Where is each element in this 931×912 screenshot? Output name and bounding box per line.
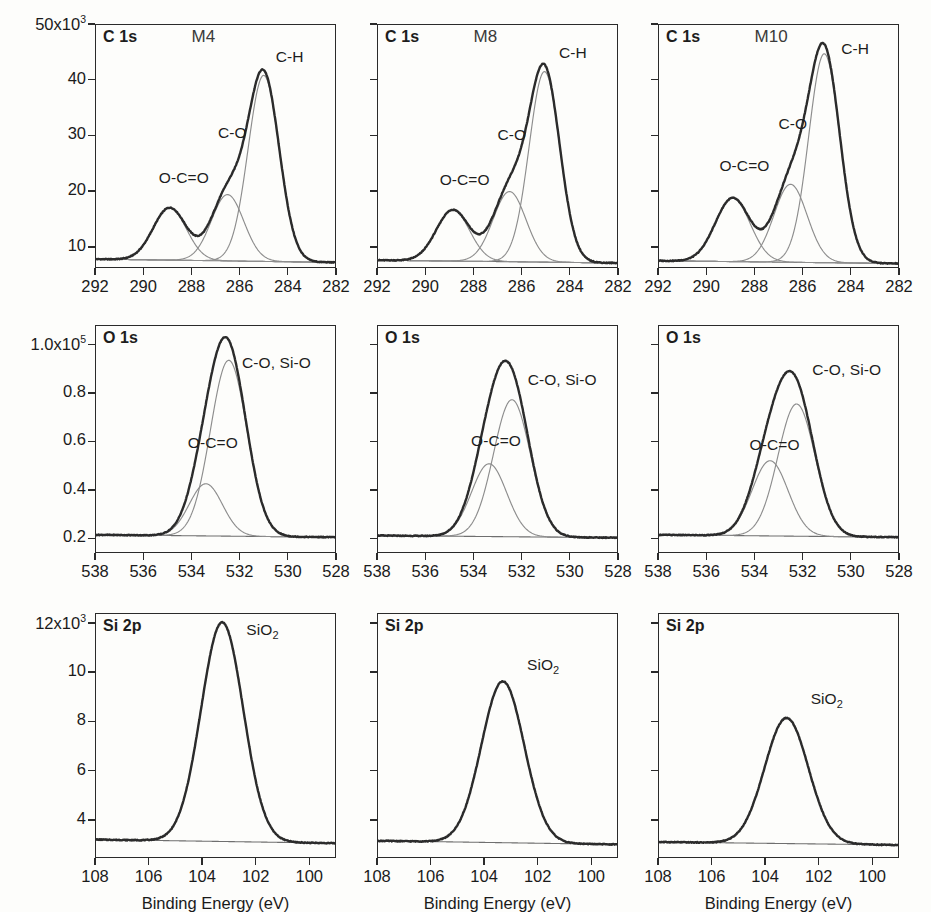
x-tick-label: 102	[508, 867, 568, 886]
component-label-0: O-C=O	[440, 171, 490, 189]
component-curve-2	[95, 75, 336, 262]
region-label: O 1s	[385, 329, 420, 347]
y-tickmark	[88, 819, 95, 820]
component-curve-1	[95, 195, 336, 263]
x-tickmark	[850, 268, 851, 275]
y-tickmark	[651, 538, 658, 539]
y-tickmark	[88, 770, 95, 771]
y-tick-label: 30	[0, 124, 86, 143]
x-tickmark	[94, 268, 95, 275]
component-curve-0	[95, 208, 336, 263]
x-tick-label: 104	[735, 867, 795, 886]
y-tick-label: 50x103	[0, 13, 86, 34]
spectrum-plot	[658, 24, 899, 268]
region-label: O 1s	[666, 329, 701, 347]
y-tickmark	[88, 190, 95, 191]
x-tickmark	[802, 553, 803, 560]
y-tickmark	[651, 671, 658, 672]
component-curve-2	[377, 72, 618, 263]
x-tickmark	[94, 858, 95, 865]
x-axis-title: Binding Energy (eV)	[658, 894, 899, 912]
y-tickmark	[370, 441, 377, 442]
y-tick-label: 10	[0, 236, 86, 255]
panel-si2p-m8: Si 2pSiO2108106104102100Binding Energy (…	[377, 613, 618, 858]
component-curve-0	[658, 461, 899, 537]
y-tick-label: 8	[0, 710, 86, 729]
component-label-1: C-O, Si-O	[812, 361, 881, 379]
panel-o1s-m4: O 1sO-C=OC-O, Si-O5385365345325305280.20…	[95, 325, 336, 553]
y-tickmark	[88, 721, 95, 722]
x-tickmark	[802, 268, 803, 275]
x-tickmark	[255, 858, 256, 865]
y-tickmark	[88, 538, 95, 539]
component-label-0: O-C=O	[471, 432, 521, 450]
y-tickmark	[370, 190, 377, 191]
y-tick-label: 0.8	[0, 382, 86, 401]
x-tickmark	[850, 553, 851, 560]
spectrum-plot	[658, 613, 899, 858]
x-tickmark	[657, 268, 658, 275]
y-tickmark	[370, 23, 377, 24]
component-curve-0	[377, 464, 618, 538]
y-tickmark	[88, 441, 95, 442]
panel-o1s-m10: O 1sO-C=OC-O, Si-O538536534532530528	[658, 325, 899, 553]
y-tick-label: 1.0x105	[0, 333, 86, 354]
x-tick-label: 106	[119, 867, 179, 886]
x-tickmark	[818, 858, 819, 865]
y-tickmark	[370, 79, 377, 80]
x-tickmark	[191, 553, 192, 560]
spectrum-plot	[95, 613, 336, 858]
x-tickmark	[473, 268, 474, 275]
x-tickmark	[473, 553, 474, 560]
y-tickmark	[88, 489, 95, 490]
y-tickmark	[651, 622, 658, 623]
y-tickmark	[88, 622, 95, 623]
y-tickmark	[651, 344, 658, 345]
y-tickmark	[651, 23, 658, 24]
panel-c1s-m4: C 1sM4O-C=OC-OC-H29229028828628428210203…	[95, 24, 336, 268]
panel-c1s-m8: C 1sM8O-C=OC-OC-H292290288286284282	[377, 24, 618, 268]
y-tickmark	[651, 489, 658, 490]
x-tickmark	[191, 268, 192, 275]
x-tickmark	[287, 268, 288, 275]
y-tickmark	[370, 246, 377, 247]
x-tickmark	[591, 858, 592, 865]
x-tickmark	[657, 858, 658, 865]
x-tickmark	[94, 553, 95, 560]
x-tickmark	[335, 268, 336, 275]
y-tick-label: 4	[0, 809, 86, 828]
component-curve-1	[658, 404, 899, 537]
y-tick-label: 6	[0, 760, 86, 779]
x-tickmark	[754, 268, 755, 275]
y-tickmark	[370, 489, 377, 490]
y-tickmark	[88, 392, 95, 393]
y-tickmark	[88, 344, 95, 345]
x-tickmark	[872, 858, 873, 865]
y-tickmark	[651, 819, 658, 820]
region-label: Si 2p	[666, 617, 705, 635]
x-tickmark	[898, 268, 899, 275]
component-label-2: C-H	[841, 40, 869, 58]
x-tick-label: 102	[226, 867, 286, 886]
x-tickmark	[898, 553, 899, 560]
x-tickmark	[569, 268, 570, 275]
y-tickmark	[370, 671, 377, 672]
x-tickmark	[754, 553, 755, 560]
y-tick-label: 0.6	[0, 430, 86, 449]
component-curve-0	[95, 622, 336, 843]
region-label: Si 2p	[385, 617, 424, 635]
x-tick-label: 108	[65, 867, 125, 886]
sample-label: M10	[754, 27, 787, 47]
y-tick-label: 40	[0, 69, 86, 88]
x-tick-label: 100	[842, 867, 902, 886]
y-tick-label: 0.2	[0, 527, 86, 546]
spectrum-plot	[377, 613, 618, 858]
x-tickmark	[287, 553, 288, 560]
x-tick-label: 528	[869, 562, 929, 581]
sample-label: M4	[191, 27, 215, 47]
envelope-curve	[658, 718, 899, 846]
y-tickmark	[370, 135, 377, 136]
sample-label: M8	[473, 27, 497, 47]
y-tickmark	[370, 721, 377, 722]
x-tickmark	[376, 268, 377, 275]
